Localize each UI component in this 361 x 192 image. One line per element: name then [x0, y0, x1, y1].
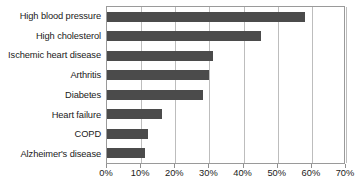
horizontal-bar-chart: High blood pressure High cholesterol Isc…	[0, 0, 361, 192]
gridline-70pct	[346, 7, 347, 163]
bar-row	[107, 46, 344, 66]
bar-row	[107, 7, 344, 27]
bar-row	[107, 124, 344, 144]
x-tick-label: 30%	[199, 168, 218, 178]
category-label-ischemic-heart-disease: Ischemic heart disease	[0, 46, 104, 66]
category-label-arthritis: Arthritis	[0, 65, 104, 85]
x-tick-label: 10%	[131, 168, 150, 178]
bar-ischemic-heart-disease[interactable]	[107, 51, 213, 61]
bar-copd[interactable]	[107, 129, 148, 139]
bar-series	[107, 7, 344, 163]
bar-row	[107, 27, 344, 47]
bar-high-blood-pressure[interactable]	[107, 12, 305, 22]
category-label-high-cholesterol: High cholesterol	[0, 26, 104, 46]
plot-area	[106, 6, 345, 164]
bar-row	[107, 105, 344, 125]
bar-row	[107, 66, 344, 86]
x-tick-label: 50%	[267, 168, 286, 178]
x-tick-label: 60%	[302, 168, 321, 178]
x-tick-label: 70%	[336, 168, 355, 178]
bar-diabetes[interactable]	[107, 90, 203, 100]
bar-row	[107, 144, 344, 164]
category-label-diabetes: Diabetes	[0, 85, 104, 105]
bar-alzheimer-s-disease[interactable]	[107, 148, 145, 158]
x-tick-label: 20%	[165, 168, 184, 178]
category-label-heart-failure: Heart failure	[0, 105, 104, 125]
bar-heart-failure[interactable]	[107, 109, 162, 119]
category-label-high-blood-pressure: High blood pressure	[0, 6, 104, 26]
bar-high-cholesterol[interactable]	[107, 31, 261, 41]
x-axis-labels: 0%10%20%30%40%50%60%70%	[106, 168, 345, 182]
category-label-alzheimers-disease: Alzheimer's disease	[0, 144, 104, 164]
x-tick-label: 40%	[233, 168, 252, 178]
category-axis-labels: High blood pressure High cholesterol Isc…	[0, 6, 104, 164]
bar-arthritis[interactable]	[107, 70, 209, 80]
bar-row	[107, 85, 344, 105]
x-tick-label: 0%	[99, 168, 112, 178]
category-label-copd: COPD	[0, 125, 104, 145]
